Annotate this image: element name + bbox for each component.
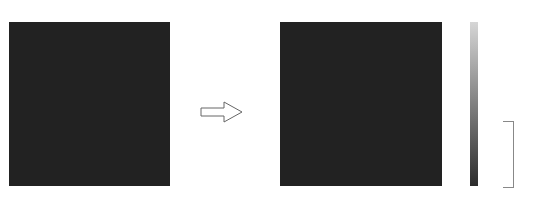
original-similarity-heatmap xyxy=(9,22,170,186)
replaced-bracket xyxy=(503,121,514,188)
colorbar xyxy=(470,22,478,186)
thresholded-heatmap xyxy=(280,22,442,186)
right-arrow-icon xyxy=(200,101,244,123)
